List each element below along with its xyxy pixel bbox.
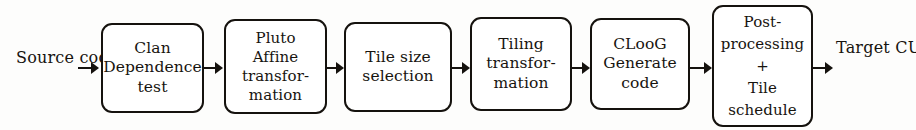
- stage-box-cloog-generate-code[interactable]: CLooG Generate code: [590, 18, 690, 110]
- stage-box-tile-size-selection[interactable]: Tile size selection: [344, 22, 452, 112]
- arrow-shaft: [689, 67, 705, 69]
- stage-label: CLooG Generate code: [592, 35, 688, 94]
- stage-label: Tiling transfor- mation: [472, 35, 570, 94]
- stage-box-tiling-transformation[interactable]: Tiling transfor- mation: [470, 17, 572, 111]
- stage-label: Post- processing + Tile schedule: [714, 11, 811, 121]
- arrow-shaft: [78, 67, 92, 69]
- arrow-head-icon: [582, 62, 590, 74]
- source-code-label: Source code: [16, 47, 78, 68]
- arrow-head-icon: [462, 62, 470, 74]
- arrow-clan-to-pluto: [203, 62, 224, 74]
- arrow-head-icon: [215, 62, 223, 74]
- arrow-head-icon: [91, 62, 99, 74]
- stage-box-post-processing-tile-schedule[interactable]: Post- processing + Tile schedule: [712, 5, 813, 127]
- stage-label: Pluto Affine transfor- mation: [226, 29, 325, 105]
- stage-label: Clan Dependence test: [101, 39, 204, 98]
- arrow-head-icon: [336, 62, 344, 74]
- arrow-head-icon: [704, 62, 712, 74]
- arrow-head-icon: [825, 62, 833, 74]
- stage-label: Tile size selection: [346, 48, 450, 87]
- arrow-source-to-clan: [78, 62, 100, 74]
- arrow-tilesize-to-tiling: [451, 62, 471, 74]
- arrow-post-to-target: [812, 62, 834, 74]
- arrow-pluto-to-tilesize: [326, 62, 345, 74]
- stage-box-clan-dependence-test[interactable]: Clan Dependence test: [101, 23, 204, 113]
- arrow-tiling-to-cloog: [571, 62, 591, 74]
- pipeline-flowchart: Source code Clan Dependence test Pluto A…: [0, 0, 916, 130]
- target-cuda-code-label: Target CUDA code: [836, 37, 904, 58]
- arrow-shaft: [812, 67, 826, 69]
- stage-box-pluto-affine-transformation[interactable]: Pluto Affine transfor- mation: [224, 19, 327, 114]
- arrow-cloog-to-post: [689, 62, 713, 74]
